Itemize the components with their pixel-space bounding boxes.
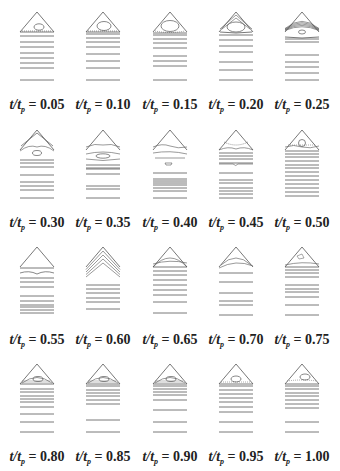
time-ratio-label: t/tp = 0.75: [265, 332, 339, 349]
variable-text: t/t: [208, 97, 220, 112]
variable-text: t/t: [274, 449, 286, 464]
variable-text: t/t: [9, 97, 21, 112]
variable-text: t/t: [75, 449, 87, 464]
contour-plot-icon: [4, 235, 70, 335]
contour-panel: t/tp = 0.35: [70, 118, 136, 235]
time-ratio-value: = 0.20: [224, 97, 263, 112]
time-ratio-label: t/tp = 0.80: [0, 449, 74, 466]
time-ratio-value: = 0.65: [158, 332, 197, 347]
contour-plot-icon: [269, 0, 335, 100]
variable-text: t/t: [9, 449, 21, 464]
contour-panel: t/tp = 0.50: [269, 118, 335, 235]
contour-panel: t/tp = 0.20: [203, 0, 269, 117]
contour-plot-icon: [70, 118, 136, 218]
time-ratio-value: = 0.80: [25, 449, 64, 464]
time-ratio-value: = 0.40: [158, 215, 197, 230]
time-ratio-label: t/tp = 0.95: [199, 449, 273, 466]
contour-panel: t/tp = 0.55: [4, 235, 70, 352]
contour-plot-icon: [137, 235, 203, 335]
contour-panel: t/tp = 0.90: [137, 352, 203, 469]
time-ratio-value: = 1.00: [290, 449, 329, 464]
time-ratio-label: t/tp = 0.45: [199, 215, 273, 232]
contour-plot-icon: [203, 235, 269, 335]
variable-text: t/t: [142, 215, 154, 230]
time-ratio-label: t/tp = 0.85: [66, 449, 140, 466]
variable-text: t/t: [274, 332, 286, 347]
time-ratio-value: = 0.45: [224, 215, 263, 230]
contour-plot-icon: [203, 352, 269, 452]
contour-plot-icon: [70, 235, 136, 335]
variable-text: t/t: [9, 215, 21, 230]
time-ratio-label: t/tp = 0.05: [0, 97, 74, 114]
time-ratio-label: t/tp = 0.10: [66, 97, 140, 114]
variable-text: t/t: [75, 332, 87, 347]
contour-figure-grid: t/tp = 0.05t/tp = 0.10t/tp = 0.15t/tp = …: [0, 0, 340, 471]
contour-panel: t/tp = 0.80: [4, 352, 70, 469]
contour-plot-icon: [203, 118, 269, 218]
variable-text: t/t: [274, 97, 286, 112]
contour-panel: t/tp = 0.85: [70, 352, 136, 469]
contour-panel: t/tp = 0.15: [137, 0, 203, 117]
time-ratio-value: = 0.50: [290, 215, 329, 230]
contour-plot-icon: [203, 0, 269, 100]
contour-panel: t/tp = 0.75: [269, 235, 335, 352]
time-ratio-label: t/tp = 1.00: [265, 449, 339, 466]
contour-panel: t/tp = 0.05: [4, 0, 70, 117]
variable-text: t/t: [208, 449, 220, 464]
time-ratio-value: = 0.55: [25, 332, 64, 347]
variable-text: t/t: [208, 215, 220, 230]
contour-plot-icon: [4, 118, 70, 218]
time-ratio-value: = 0.30: [25, 215, 64, 230]
time-ratio-value: = 0.70: [224, 332, 263, 347]
variable-text: t/t: [75, 97, 87, 112]
variable-text: t/t: [142, 449, 154, 464]
contour-plot-icon: [137, 352, 203, 452]
contour-plot-icon: [269, 352, 335, 452]
contour-panel: t/tp = 0.30: [4, 118, 70, 235]
time-ratio-value: = 0.95: [224, 449, 263, 464]
time-ratio-value: = 0.05: [25, 97, 64, 112]
time-ratio-label: t/tp = 0.20: [199, 97, 273, 114]
time-ratio-label: t/tp = 0.55: [0, 332, 74, 349]
time-ratio-value: = 0.15: [158, 97, 197, 112]
time-ratio-label: t/tp = 0.30: [0, 215, 74, 232]
time-ratio-value: = 0.35: [91, 215, 130, 230]
contour-panel: t/tp = 0.10: [70, 0, 136, 117]
time-ratio-label: t/tp = 0.50: [265, 215, 339, 232]
contour-plot-icon: [4, 0, 70, 100]
time-ratio-value: = 0.25: [290, 97, 329, 112]
contour-plot-icon: [137, 118, 203, 218]
variable-text: t/t: [75, 215, 87, 230]
time-ratio-label: t/tp = 0.25: [265, 97, 339, 114]
time-ratio-label: t/tp = 0.40: [133, 215, 207, 232]
contour-plot-icon: [269, 118, 335, 218]
time-ratio-label: t/tp = 0.35: [66, 215, 140, 232]
variable-text: t/t: [9, 332, 21, 347]
variable-text: t/t: [142, 97, 154, 112]
contour-panel: t/tp = 0.70: [203, 235, 269, 352]
contour-plot-icon: [70, 352, 136, 452]
variable-text: t/t: [208, 332, 220, 347]
time-ratio-value: = 0.75: [290, 332, 329, 347]
contour-panel: t/tp = 0.95: [203, 352, 269, 469]
time-ratio-label: t/tp = 0.90: [133, 449, 207, 466]
time-ratio-label: t/tp = 0.65: [133, 332, 207, 349]
time-ratio-label: t/tp = 0.60: [66, 332, 140, 349]
contour-panel: t/tp = 1.00: [269, 352, 335, 469]
time-ratio-label: t/tp = 0.15: [133, 97, 207, 114]
variable-text: t/t: [142, 332, 154, 347]
time-ratio-value: = 0.85: [91, 449, 130, 464]
time-ratio-value: = 0.90: [158, 449, 197, 464]
contour-panel: t/tp = 0.25: [269, 0, 335, 117]
time-ratio-value: = 0.10: [91, 97, 130, 112]
contour-plot-icon: [70, 0, 136, 100]
contour-plot-icon: [137, 0, 203, 100]
contour-plot-icon: [269, 235, 335, 335]
variable-text: t/t: [274, 215, 286, 230]
contour-panel: t/tp = 0.40: [137, 118, 203, 235]
contour-panel: t/tp = 0.60: [70, 235, 136, 352]
contour-panel: t/tp = 0.65: [137, 235, 203, 352]
time-ratio-label: t/tp = 0.70: [199, 332, 273, 349]
time-ratio-value: = 0.60: [91, 332, 130, 347]
contour-plot-icon: [4, 352, 70, 452]
